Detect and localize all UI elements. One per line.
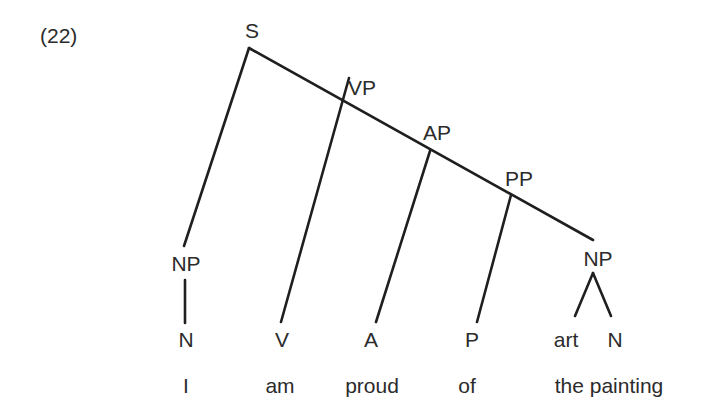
node-v: V	[275, 329, 289, 350]
edge-vp-to-v	[281, 78, 349, 322]
node-np-object: NP	[583, 248, 612, 269]
word-proud: proud	[345, 375, 399, 396]
syntax-tree-edges	[0, 0, 712, 415]
edge-np-to-n-object	[593, 273, 611, 316]
node-pp: PP	[505, 168, 533, 189]
node-art: art	[554, 329, 579, 350]
edge-np-to-art	[575, 273, 593, 316]
node-n-subject: N	[178, 329, 193, 350]
node-ap: AP	[423, 122, 451, 143]
edge-pp-to-p	[477, 195, 511, 322]
node-n-object: N	[607, 329, 622, 350]
word-am: am	[265, 375, 294, 396]
edge-s-to-np-object-spine	[249, 48, 593, 240]
word-the-painting: the painting	[555, 375, 664, 396]
node-vp: VP	[348, 77, 376, 98]
word-of: of	[458, 375, 476, 396]
edge-s-to-np-subject	[184, 48, 249, 246]
node-p: P	[465, 329, 479, 350]
word-i: I	[183, 375, 189, 396]
node-s: S	[245, 20, 259, 41]
edge-ap-to-a	[376, 151, 430, 322]
node-np-subject: NP	[171, 253, 200, 274]
node-a: A	[364, 329, 378, 350]
